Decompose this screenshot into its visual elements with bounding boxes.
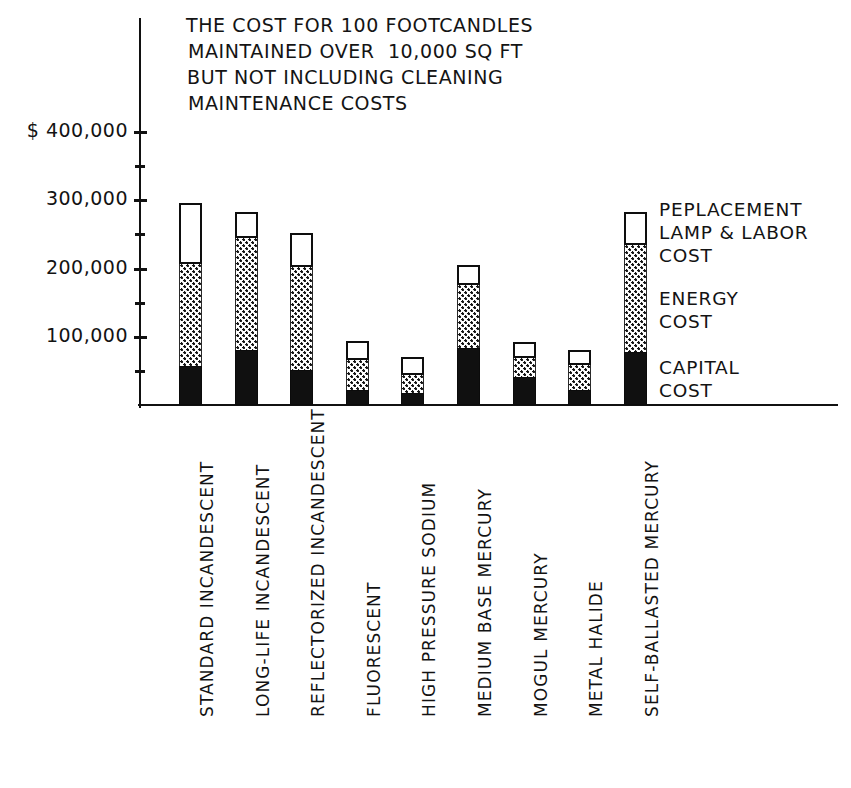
bar-segment-energy: [179, 264, 202, 366]
bar-segment-capital: [568, 390, 591, 405]
bar-segment-replacement: [346, 341, 369, 360]
bar-segment-energy: [513, 358, 536, 377]
bar-segment-capital: [513, 377, 536, 405]
category-label: LONG-LIFE INCANDESCENT: [253, 464, 273, 717]
bar-segment-replacement: [401, 357, 424, 375]
legend-capital-line-2: COST: [659, 379, 849, 402]
hand-drawn-bar-chart: THE COST FOR 100 FOOTCANDLES MAINTAINED …: [0, 0, 851, 788]
legend-replacement-line-1: PEPLACEMENT: [659, 198, 849, 221]
bar-segment-capital: [290, 370, 313, 405]
bar-segment-replacement: [513, 342, 536, 358]
bar-segment-replacement: [290, 233, 313, 267]
legend-energy-line-1: ENERGY: [659, 287, 849, 310]
legend-entry-capital: CAPITAL COST: [659, 356, 849, 402]
bar-segment-energy: [457, 285, 480, 348]
category-label: HIGH PRESSURE SODIUM: [419, 482, 439, 717]
legend-energy-line-2: COST: [659, 310, 849, 333]
bar-segment-energy: [235, 238, 258, 350]
category-label: REFLECTORIZED INCANDESCENT: [308, 408, 328, 717]
bar-segment-capital: [457, 348, 480, 405]
category-label: STANDARD INCANDESCENT: [197, 461, 217, 717]
legend-capital-line-1: CAPITAL: [659, 356, 849, 379]
bar-segment-replacement: [624, 212, 647, 245]
bar-segment-energy: [346, 360, 369, 390]
legend-replacement-line-2: LAMP & LABOR: [659, 221, 849, 244]
category-label: MOGUL MERCURY: [531, 552, 551, 717]
category-label: SELF-BALLASTED MERCURY: [642, 460, 662, 717]
bar-segment-energy: [568, 365, 591, 390]
category-label: METAL HALIDE: [586, 580, 606, 717]
legend-entry-replacement: PEPLACEMENT LAMP & LABOR COST: [659, 198, 849, 267]
legend-entry-energy: ENERGY COST: [659, 287, 849, 333]
bar-segment-capital: [235, 350, 258, 405]
bar-segment-capital: [401, 393, 424, 405]
bar-segment-energy: [401, 375, 424, 393]
bar-segment-replacement: [457, 265, 480, 285]
category-label: MEDIUM BASE MERCURY: [475, 488, 495, 717]
bar-segment-capital: [346, 390, 369, 405]
legend-replacement-line-3: COST: [659, 244, 849, 267]
bar-segment-replacement: [235, 212, 258, 238]
category-label: FLUORESCENT: [364, 582, 384, 717]
bar-segment-capital: [624, 352, 647, 405]
bar-segment-energy: [624, 245, 647, 352]
bar-segment-capital: [179, 366, 202, 405]
bar-segment-energy: [290, 267, 313, 370]
bar-segment-replacement: [568, 350, 591, 364]
bar-segment-replacement: [179, 203, 202, 264]
